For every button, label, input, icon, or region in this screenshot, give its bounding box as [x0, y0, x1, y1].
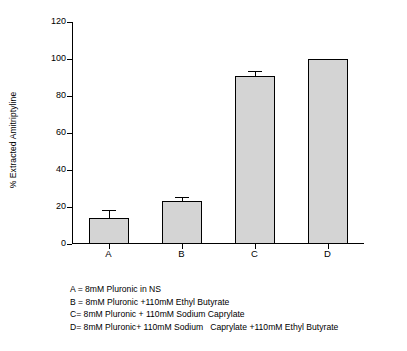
y-axis-tick	[67, 59, 72, 60]
caption-line: C= 8mM Pluronic + 110mM Sodium Caprylate	[70, 308, 400, 321]
y-axis-title: % Extracted Amitriptyline	[8, 0, 22, 60]
bar-chart: % Extracted Amitriptyline 02040608010012…	[0, 0, 407, 351]
y-axis-tick-label: 100	[40, 54, 66, 63]
bar	[89, 218, 129, 244]
bar	[308, 59, 348, 244]
x-axis-tick-label: C	[240, 248, 270, 259]
plot-area: 020406080100120	[72, 22, 364, 244]
x-axis-tick-label: A	[94, 248, 124, 259]
y-axis-tick-label: 60	[40, 128, 66, 137]
y-axis-tick	[67, 96, 72, 97]
error-bar-cap	[102, 210, 116, 211]
caption-line: D= 8mM Pluronic+ 110mM Sodium Caprylate …	[70, 321, 400, 334]
chart-caption: A = 8mM Pluronic in NSB = 8mM Pluronic +…	[70, 283, 400, 333]
y-axis-tick-labels: 020406080100120	[38, 22, 66, 244]
y-axis-title-text: % Extracted Amitriptyline	[8, 60, 18, 220]
y-axis-tick	[67, 170, 72, 171]
y-axis-tick	[67, 244, 72, 245]
y-axis-tick	[67, 133, 72, 134]
y-axis-tick-label: 40	[40, 165, 66, 174]
bar	[162, 201, 202, 244]
y-axis-tick	[67, 22, 72, 23]
bar	[235, 76, 275, 244]
x-axis-tick-label: B	[167, 248, 197, 259]
y-axis-tick-label: 0	[40, 239, 66, 248]
y-axis-line	[72, 22, 73, 244]
error-bar-cap	[248, 71, 262, 72]
y-axis-tick	[67, 207, 72, 208]
y-axis-tick-label: 120	[40, 17, 66, 26]
x-axis-tick-label: D	[313, 248, 343, 259]
error-bar	[182, 198, 183, 202]
y-axis-tick-label: 80	[40, 91, 66, 100]
y-axis-tick-label: 20	[40, 202, 66, 211]
caption-line: B = 8mM Pluronic +110mM Ethyl Butyrate	[70, 296, 400, 309]
error-bar	[255, 72, 256, 76]
caption-line: A = 8mM Pluronic in NS	[70, 283, 400, 296]
error-bar-cap	[175, 197, 189, 198]
error-bar	[109, 211, 110, 218]
